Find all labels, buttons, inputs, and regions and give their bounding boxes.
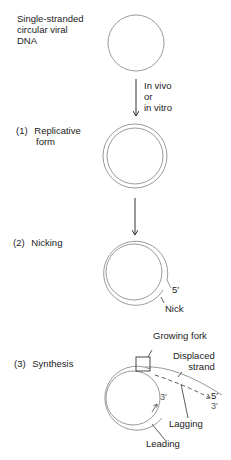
step-2-label: (2) Nicking	[13, 237, 62, 248]
growing-fork-box	[136, 357, 150, 371]
conversion-label-line: or	[144, 91, 172, 102]
step-label: Synthesis	[32, 358, 73, 369]
start-label: Single-stranded circular viral DNA	[17, 13, 84, 46]
displaced-strand-label: Displaced strand	[173, 350, 215, 372]
ss-dna-circle	[108, 15, 164, 71]
diagram-canvas	[0, 0, 231, 460]
three-prime-lagging-label: 3′	[211, 401, 218, 412]
replicative-form-circle	[103, 124, 167, 188]
start-label-line: DNA	[17, 35, 84, 46]
conversion-label-line: In vivo	[144, 80, 172, 91]
step-1-label: (1) Replicative form	[16, 125, 81, 147]
step-number: (2)	[13, 237, 25, 248]
step-label: form	[36, 136, 81, 147]
displaced-strand-line: Displaced	[173, 350, 215, 361]
nick-label: Nick	[165, 303, 183, 314]
step-label: Replicative	[34, 125, 80, 136]
step-number: (3)	[14, 358, 26, 369]
start-label-line: circular viral	[17, 24, 84, 35]
growing-fork-label: Growing fork	[153, 330, 207, 341]
lagging-label: Lagging	[169, 418, 203, 429]
conversion-label: In vivo or in vitro	[144, 80, 172, 113]
three-prime-leading-label: 3′	[160, 392, 167, 403]
start-label-line: Single-stranded	[17, 13, 84, 24]
leading-label: Leading	[146, 438, 180, 449]
conversion-label-line: in vitro	[144, 102, 172, 113]
displaced-strand-line: strand	[173, 361, 215, 372]
step-label: Nicking	[31, 237, 62, 248]
step-3-label: (3) Synthesis	[14, 358, 73, 369]
step-number: (1)	[16, 125, 28, 136]
five-prime-synthesis-label: 5′	[211, 390, 218, 401]
five-prime-label: 5′	[172, 284, 179, 295]
nicked-circle	[104, 241, 171, 305]
